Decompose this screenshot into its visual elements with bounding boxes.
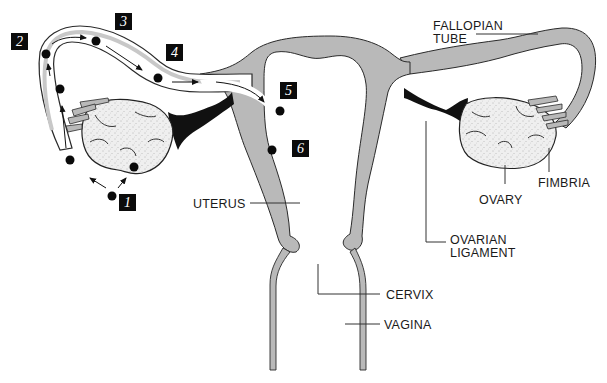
step-marker-2: 2	[11, 33, 28, 50]
ovum-dot-2	[42, 50, 51, 59]
label-ovarian-ligament: OVARIAN LIGAMENT	[450, 234, 516, 260]
ovum-dot-a	[66, 156, 75, 165]
label-vagina: VAGINA	[384, 319, 432, 332]
ovum-dot-ovary	[130, 163, 139, 172]
label-fallopian-tube: FALLOPIAN TUBE	[433, 20, 503, 46]
ovum-dot-3	[92, 37, 101, 46]
step-marker-6: 6	[292, 140, 309, 157]
label-ovary: OVARY	[479, 194, 523, 207]
step-marker-3: 3	[115, 13, 132, 30]
label-fimbria: FIMBRIA	[538, 177, 590, 190]
vagina-right-wall	[350, 248, 366, 370]
ovum-dot-5	[276, 107, 285, 116]
label-ovarian-line2: LIGAMENT	[450, 247, 516, 260]
step-marker-5: 5	[280, 82, 297, 99]
label-fallopian-line2: TUBE	[433, 33, 503, 46]
label-uterus: UTERUS	[193, 198, 246, 211]
step-marker-1: 1	[119, 194, 136, 211]
step-marker-4: 4	[166, 44, 183, 61]
anatomy-illustration	[0, 0, 607, 383]
right-ovarian-ligament	[404, 88, 468, 126]
left-ovary	[82, 99, 173, 173]
ovum-dot-4	[154, 74, 163, 83]
ovum-dot-6	[268, 146, 277, 155]
vagina-left-wall	[270, 248, 290, 370]
ovum-dot-b	[56, 85, 65, 94]
ovum-dot-1	[108, 192, 117, 201]
label-cervix: CERVIX	[386, 289, 434, 302]
reproductive-system-diagram: 1 2 3 4 5 6 FALLOPIAN TUBE FIMBRIA OVARY…	[0, 0, 607, 383]
left-ovarian-ligament	[168, 92, 234, 150]
